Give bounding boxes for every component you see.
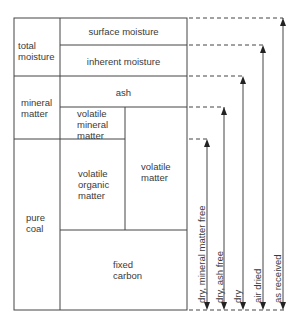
pure-coal-label: pure coal [26,212,45,234]
surface-moisture-label: surface moisture [60,26,187,37]
basis-dry-label: dry [232,290,243,303]
inherent-moisture-label: inherent moisture [60,56,187,67]
volatile-matter-label: volatile matter [141,161,171,183]
ash-label: ash [60,87,187,98]
volatile-organic-matter-label: volatile organic matter [78,168,109,201]
fixed-carbon-label: fixed carbon [113,259,142,281]
basis-air-dried-label: air dried [252,269,263,303]
basis-daf-label: dry, ash free [214,251,225,303]
mineral-matter-label: mineral matter [21,97,52,119]
basis-dmmf-label: dry, mineral matter free [196,206,207,304]
volatile-mineral-matter-label: volatile mineral matter [77,108,108,141]
basis-as-received-label: as received [272,254,283,303]
total-moisture-label: total moisture [18,40,54,62]
